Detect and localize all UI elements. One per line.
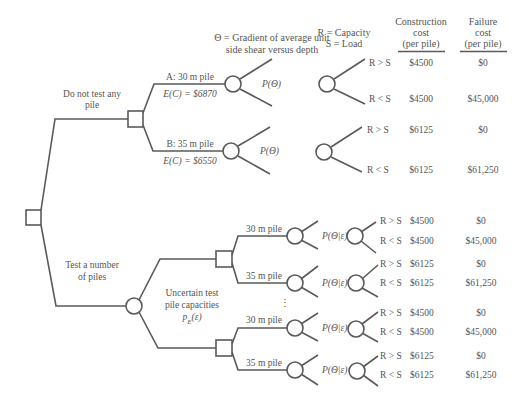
- svg-text:Construction: Construction: [395, 16, 447, 27]
- svg-text:pile: pile: [85, 100, 99, 110]
- root-decision-node: [26, 210, 41, 225]
- option-b-label: B: 35 m pile: [166, 139, 213, 149]
- chance-label: Uncertain test pile capacities pE(ε): [165, 288, 219, 326]
- decision-node-test: [216, 340, 232, 356]
- svg-text:$4500: $4500: [410, 236, 434, 246]
- svg-text:Failure: Failure: [469, 16, 498, 27]
- rs-branches: [334, 59, 365, 104]
- no-test-label: Do not test any pile: [63, 89, 121, 110]
- outcome-row: R > S $6125 $0: [380, 351, 486, 361]
- outcome-row: R < S $6125 $61,250: [367, 165, 499, 175]
- svg-text:$4500: $4500: [409, 58, 433, 68]
- svg-text:$0: $0: [476, 216, 486, 226]
- svg-text:$6125: $6125: [410, 351, 434, 361]
- svg-text:R > S: R > S: [380, 351, 402, 361]
- svg-text:R = Capacity: R = Capacity: [318, 27, 371, 38]
- branch-test-outcome-n: [139, 312, 216, 348]
- svg-text:(per pile): (per pile): [465, 38, 502, 50]
- svg-text:$6125: $6125: [410, 278, 434, 288]
- option-a-expected-cost: E(C) = $6870: [162, 89, 217, 100]
- svg-text:$0: $0: [478, 58, 488, 68]
- option-label: 35 m pile: [246, 358, 282, 368]
- rs-definition: R = Capacity S = Load: [318, 27, 371, 49]
- construction-cost-header: Construction cost (per pile): [395, 16, 447, 52]
- outcome-row: R < S $4500 $45,000: [380, 236, 497, 246]
- svg-text:P(Θ|ε): P(Θ|ε): [321, 365, 347, 376]
- svg-text:R < S: R < S: [380, 278, 402, 288]
- svg-text:R < S: R < S: [380, 327, 402, 337]
- svg-text:$0: $0: [476, 351, 486, 361]
- svg-text:$4500: $4500: [410, 308, 434, 318]
- svg-text:cost: cost: [413, 27, 429, 38]
- svg-text:$0: $0: [478, 125, 488, 135]
- option-label: 35 m pile: [246, 271, 282, 281]
- svg-text:$45,000: $45,000: [466, 236, 497, 246]
- rs-branches: [331, 127, 362, 172]
- svg-text:R > S: R > S: [367, 125, 389, 135]
- outcome-row: R < S $6125 $61,250: [380, 278, 497, 288]
- svg-text:P(Θ|ε): P(Θ|ε): [321, 278, 347, 289]
- svg-text:$45,000: $45,000: [468, 94, 499, 104]
- failure-cost-header: Failure cost (per pile): [460, 16, 507, 52]
- ellipsis: ⋮: [280, 298, 290, 308]
- svg-text:R < S: R < S: [367, 165, 389, 175]
- svg-text:Uncertain test: Uncertain test: [165, 288, 218, 298]
- outcome-row: R < S $6125 $61,250: [380, 370, 497, 380]
- svg-text:$61,250: $61,250: [468, 165, 499, 175]
- svg-text:R < S: R < S: [380, 236, 402, 246]
- svg-text:$6125: $6125: [410, 370, 434, 380]
- svg-text:P(Θ|ε): P(Θ|ε): [321, 231, 347, 242]
- outcome-row: R > S $6125 $0: [380, 259, 486, 269]
- svg-text:R < S: R < S: [380, 370, 402, 380]
- chance-node-theta: [223, 143, 239, 159]
- svg-text:R < S: R < S: [369, 94, 391, 104]
- option-b-expected-cost: E(C) = $6550: [162, 156, 217, 167]
- prob-label: P(Θ): [261, 79, 281, 90]
- chance-node-rs: [316, 144, 332, 160]
- svg-text:$45,000: $45,000: [466, 327, 497, 337]
- branch-no-test: [41, 119, 128, 210]
- decision-node-test: [216, 251, 232, 267]
- svg-text:$6125: $6125: [409, 165, 433, 175]
- svg-text:cost: cost: [475, 27, 491, 38]
- svg-text:$0: $0: [476, 259, 486, 269]
- svg-text:side shear versus depth: side shear versus depth: [226, 44, 318, 55]
- svg-text:R > S: R > S: [380, 308, 402, 318]
- option-label: 30 m pile: [246, 315, 282, 325]
- svg-text:$4500: $4500: [409, 94, 433, 104]
- svg-text:Test a number: Test a number: [65, 260, 120, 270]
- chance-node-theta: [225, 76, 241, 92]
- option-a-label: A: 30 m pile: [166, 72, 214, 82]
- svg-text:$4500: $4500: [410, 327, 434, 337]
- option-label: 30 m pile: [246, 224, 282, 234]
- test-label: Test a number of piles: [65, 260, 120, 282]
- svg-text:pE(ε): pE(ε): [181, 312, 201, 326]
- decision-tree-diagram: Θ = Gradient of average unit side shear …: [0, 0, 530, 403]
- outcome-row: R > S $6125 $0: [367, 125, 488, 135]
- svg-text:(per pile): (per pile): [403, 38, 440, 50]
- theta-definition: Θ = Gradient of average unit side shear …: [214, 32, 330, 55]
- rs-chance-nodes: [347, 222, 378, 386]
- outcome-row: R > S $4500 $0: [380, 308, 486, 318]
- svg-text:$0: $0: [476, 308, 486, 318]
- chance-node-rs: [319, 76, 335, 92]
- svg-text:R > S: R > S: [369, 58, 391, 68]
- svg-text:S = Load: S = Load: [326, 38, 363, 49]
- outcome-row: R < S $4500 $45,000: [369, 94, 499, 104]
- outcome-row: R > S $4500 $0: [380, 216, 486, 226]
- svg-text:Do not test any: Do not test any: [63, 89, 121, 99]
- svg-text:$61,250: $61,250: [466, 278, 497, 288]
- svg-text:of piles: of piles: [78, 272, 107, 282]
- outcome-row: R > S $4500 $0: [369, 58, 488, 68]
- svg-text:R > S: R > S: [380, 259, 402, 269]
- svg-text:P(Θ|ε): P(Θ|ε): [321, 323, 347, 334]
- svg-text:pile capacities: pile capacities: [165, 300, 219, 310]
- svg-text:$6125: $6125: [409, 125, 433, 135]
- svg-text:Θ = Gradient of average unit: Θ = Gradient of average unit: [214, 32, 330, 43]
- svg-text:$6125: $6125: [410, 259, 434, 269]
- chance-node-test-results: [126, 298, 142, 314]
- svg-text:R > S: R > S: [380, 216, 402, 226]
- prob-label: P(Θ): [259, 146, 279, 157]
- theta-chance-rows: P(Θ|ε) P(Θ|ε) P(Θ|ε) P(Θ|ε): [287, 221, 347, 385]
- svg-text:$61,250: $61,250: [466, 370, 497, 380]
